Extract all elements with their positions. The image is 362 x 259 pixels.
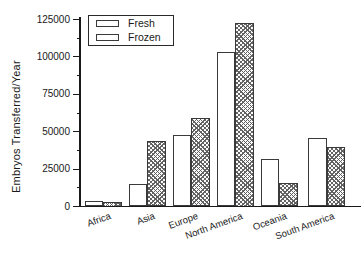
y-tick-label: 100000 xyxy=(10,51,70,63)
x-tick-label-asia: Asia xyxy=(135,210,156,227)
bar-chart-figure: Embryos Transferred/Year 025000500007500… xyxy=(0,0,362,259)
x-tick-label-africa: Africa xyxy=(85,210,112,229)
bar-fresh-north-america xyxy=(217,52,236,206)
y-tick-label: 50000 xyxy=(10,126,70,138)
y-tick-label: 25000 xyxy=(10,163,70,175)
legend-label-frozen: Frozen xyxy=(128,32,161,43)
bar-frozen-south-america xyxy=(327,147,346,206)
bar-frozen-asia xyxy=(147,141,166,207)
plot-area: 0250005000075000100000125000AfricaAsiaEu… xyxy=(0,0,362,259)
legend-swatch-fresh-icon xyxy=(96,20,119,27)
y-tick-label: 75000 xyxy=(10,88,70,100)
bar-fresh-asia xyxy=(129,184,148,206)
legend-label-fresh: Fresh xyxy=(128,18,155,29)
y-tick-label: 125000 xyxy=(10,14,70,26)
y-tick-label: 0 xyxy=(10,201,70,213)
bar-frozen-oceania xyxy=(279,183,298,206)
y-axis-line xyxy=(79,17,80,207)
bar-fresh-europe xyxy=(173,135,192,207)
legend-swatch-frozen-icon xyxy=(96,34,119,41)
bar-fresh-south-america xyxy=(308,138,327,207)
bar-frozen-north-america xyxy=(235,23,254,207)
bar-fresh-oceania xyxy=(261,159,280,207)
legend-item-frozen: Frozen xyxy=(96,32,173,43)
legend-item-fresh: Fresh xyxy=(96,18,173,29)
bar-frozen-europe xyxy=(191,118,210,206)
x-axis-line xyxy=(79,206,361,207)
legend: Fresh Frozen xyxy=(88,15,174,46)
